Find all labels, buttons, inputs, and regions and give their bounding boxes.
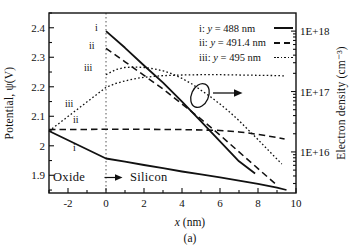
x-axis-title: x (nm) bbox=[130, 216, 250, 228]
region-arrow-head bbox=[115, 174, 123, 180]
y-left-tick-label-2.3: 2.3 bbox=[17, 51, 45, 63]
legend-label-iii-prefix: iii: bbox=[199, 52, 213, 63]
legend-item-iii: iii: y = 495 nm bbox=[199, 50, 293, 65]
series-potential-iii bbox=[49, 75, 285, 131]
region-label-oxide: Oxide bbox=[53, 171, 85, 184]
y-left-tick-label-1.9: 1.9 bbox=[17, 169, 45, 181]
x-tick-label--2: -2 bbox=[55, 197, 81, 209]
legend-line-sample-solid bbox=[274, 27, 293, 29]
region-label-silicon: Silicon bbox=[130, 171, 168, 184]
x-tick-label-0: 0 bbox=[93, 197, 119, 209]
curve-label-potential-i: i bbox=[73, 143, 76, 153]
y-left-tick-label-2.1: 2.1 bbox=[17, 110, 45, 122]
legend-label-ii-value: = 491.4 nm bbox=[215, 37, 266, 48]
right-axis-indicator-ellipse bbox=[187, 81, 213, 111]
curve-label-potential-ii: ii bbox=[73, 115, 79, 125]
legend: i: y = 488 nm ii: y = 491.4 nm iii: y = … bbox=[199, 21, 293, 65]
legend-label-i: i: y = 488 nm bbox=[199, 23, 255, 34]
x-tick-label-10: 10 bbox=[283, 197, 309, 209]
curve-label-density-ii: ii bbox=[89, 41, 95, 51]
y-left-tick-label-2.4: 2.4 bbox=[17, 22, 45, 34]
legend-label-iii: iii: y = 495 nm bbox=[199, 52, 261, 63]
curve-label-density-iii: iii bbox=[84, 63, 92, 73]
curve-label-potential-iii: iii bbox=[65, 99, 73, 109]
y-right-tick-label-1E+18: 1E+18 bbox=[300, 25, 329, 37]
series-density-iii bbox=[106, 67, 282, 164]
right-axis-indicator-arrow-head bbox=[234, 89, 243, 96]
legend-label-iii-value: = 495 nm bbox=[218, 52, 261, 63]
x-tick-label-2: 2 bbox=[131, 197, 157, 209]
legend-item-i: i: y = 488 nm bbox=[199, 21, 293, 36]
legend-item-ii: ii: y = 491.4 nm bbox=[199, 36, 293, 51]
y-right-tick-label-1E+16: 1E+16 bbox=[300, 146, 329, 158]
x-axis-title-unit: (nm) bbox=[180, 216, 205, 228]
y-left-tick-label-2.2: 2.2 bbox=[17, 81, 45, 93]
subfigure-caption: (a) bbox=[130, 232, 250, 244]
y-left-tick-label-2: 2 bbox=[17, 140, 45, 152]
legend-line-sample-dashed bbox=[274, 42, 293, 44]
x-tick-label-8: 8 bbox=[245, 197, 271, 209]
y-right-tick-label-1E+17: 1E+17 bbox=[300, 86, 329, 98]
legend-line-sample-dotted bbox=[274, 57, 293, 59]
y-left-axis-title: Potential, ψ(V) bbox=[3, 67, 15, 140]
x-tick-label-4: 4 bbox=[169, 197, 195, 209]
chart-canvas bbox=[0, 0, 361, 250]
curve-label-density-i: i bbox=[95, 23, 98, 33]
legend-label-ii-prefix: ii: bbox=[199, 37, 210, 48]
legend-label-ii: ii: y = 491.4 nm bbox=[199, 37, 266, 48]
legend-label-i-value: = 488 nm bbox=[212, 23, 255, 34]
series-density-ii bbox=[106, 48, 277, 185]
chart-figure: Potential, ψ(V) Electron density (cm⁻³) … bbox=[0, 0, 361, 250]
y-right-axis-title: Electron density (cm⁻³) bbox=[334, 46, 348, 160]
x-tick-label-6: 6 bbox=[207, 197, 233, 209]
